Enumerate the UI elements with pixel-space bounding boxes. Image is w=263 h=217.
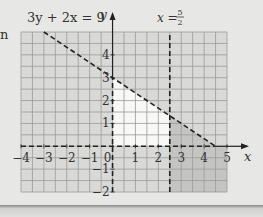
x-tick-label: 5 [223, 151, 231, 165]
fraction-numerator: 5 [177, 8, 182, 17]
y-tick-label: 1 [102, 116, 110, 130]
line-equation-label: 3y + 2x = 9 [27, 10, 105, 25]
x-tick-label: 4 [200, 151, 208, 165]
inequality-graph: −4−3−2−1012345−2−11234xy3y + 2x = 9x = 5… [0, 0, 263, 217]
y-tick-label: 3 [102, 71, 110, 85]
fraction-denominator: 2 [177, 18, 182, 27]
y-tick-label: 4 [102, 48, 110, 62]
y-tick-label: 2 [102, 94, 110, 108]
y-tick-label: −2 [92, 185, 110, 199]
x-tick-label: 2 [155, 151, 163, 165]
x-axis-label: x [244, 149, 252, 164]
x-tick-label: 3 [177, 151, 185, 165]
x-tick-label: −3 [35, 151, 53, 165]
x-tick-label: 1 [132, 151, 140, 165]
x-tick-label: −4 [12, 151, 30, 165]
x-tick-label: −2 [58, 151, 76, 165]
y-tick-label: −1 [92, 162, 110, 176]
vertical-line-equation-label: x = [157, 11, 178, 25]
y-axis-arrow-icon [110, 12, 116, 20]
